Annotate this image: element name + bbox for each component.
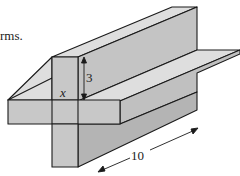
vertical-bar-front-lower [52, 124, 78, 167]
horizontal-bar-front [8, 100, 120, 124]
length-label: 10 [131, 148, 144, 163]
cross-prism-diagram: 3 x 10 [0, 0, 240, 176]
height-label: 3 [86, 70, 93, 85]
unknown-x-label: x [59, 85, 66, 100]
figure-stage: rms. [0, 0, 240, 176]
